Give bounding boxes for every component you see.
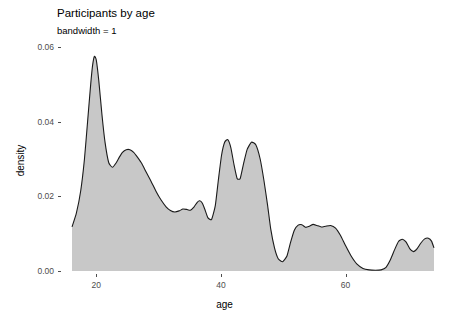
density-fill-path bbox=[72, 56, 434, 271]
y-axis-title: density bbox=[15, 121, 26, 201]
density-plot-panel: Participants by age bandwidth = 1 0.000.… bbox=[0, 0, 449, 323]
density-curve-area bbox=[0, 0, 449, 323]
x-tick-label: 60 bbox=[331, 280, 361, 290]
x-tick-mark bbox=[96, 274, 97, 277]
y-tick-label: 0.00 bbox=[20, 266, 54, 276]
x-tick-label: 40 bbox=[206, 280, 236, 290]
y-tick-mark bbox=[58, 196, 61, 197]
y-tick-label: 0.06 bbox=[20, 42, 54, 52]
x-tick-label: 20 bbox=[81, 280, 111, 290]
x-axis-title: age bbox=[0, 299, 449, 310]
y-tick-mark bbox=[58, 47, 61, 48]
y-tick-mark bbox=[58, 122, 61, 123]
y-tick-mark bbox=[58, 271, 61, 272]
x-tick-mark bbox=[221, 274, 222, 277]
x-tick-mark bbox=[346, 274, 347, 277]
